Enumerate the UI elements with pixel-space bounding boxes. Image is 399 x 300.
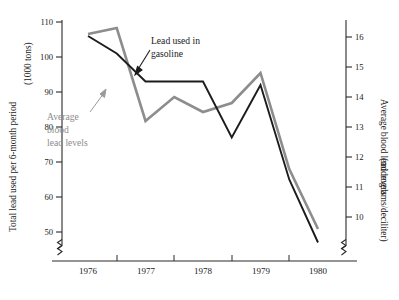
right-axis-label-12: 12 [355,152,364,162]
left-axis-label-100: 100 [40,52,53,62]
left-axis: 110 100 90 80 70 60 50 Total lead used p… [8,17,62,255]
x-axis-label-1979: 1979 [252,266,271,276]
annotation-average-blood-lead: Average blood lead levels [47,89,106,148]
right-axis-break-icon [342,240,347,256]
left-axis-label-60: 60 [44,192,53,202]
x-axis-label-1977: 1977 [137,266,156,276]
right-axis-label-16: 16 [355,32,364,42]
x-axis-label-1980: 1980 [309,266,328,276]
left-axis-title: Total lead used per 6-month period [8,101,18,232]
left-axis-label-90: 90 [44,87,53,97]
left-axis-label-110: 110 [40,17,53,27]
right-axis-units: (micrograms/deciliter) [378,158,389,242]
right-axis-label-10: 10 [355,212,364,222]
annotation-arrow-black-icon [135,50,150,75]
annotation-lead-gasoline-line1: Lead used in [151,35,200,46]
right-axis: 16 15 14 13 12 11 10 Average blood lead … [342,20,390,255]
left-axis-label-70: 70 [44,157,53,167]
annotation-blood-lead-line2: blood [47,124,69,135]
annotation-lead-gasoline-line2: gasoline [151,48,183,59]
annotation-lead-used-in-gasoline: Lead used in gasoline [135,35,200,75]
annotation-blood-lead-line1: Average [47,111,79,122]
left-axis-units: (1000 tons) [23,42,34,85]
x-axis: 1976 1977 1978 1979 1980 [52,255,357,276]
lead-vs-blood-lead-line-chart: 110 100 90 80 70 60 50 Total lead used p… [0,0,399,300]
chart-figure: 110 100 90 80 70 60 50 Total lead used p… [0,0,399,300]
annotation-blood-lead-line3: lead levels [47,137,88,148]
x-axis-label-1978: 1978 [194,266,213,276]
left-axis-break-icon [58,240,63,256]
left-axis-label-50: 50 [44,227,53,237]
right-axis-label-11: 11 [355,182,363,192]
series-line-lead-used-in-gasoline [88,36,318,243]
right-axis-label-15: 15 [355,62,364,72]
annotation-arrow-gray-icon [90,89,106,112]
x-axis-label-1976: 1976 [79,266,98,276]
right-axis-label-13: 13 [355,122,364,132]
right-axis-label-14: 14 [355,92,364,102]
